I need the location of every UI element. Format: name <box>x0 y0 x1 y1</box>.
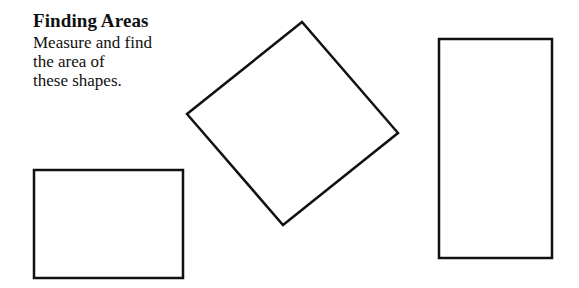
tall-rectangle-shape <box>439 39 552 258</box>
rotated-square-shape <box>187 22 398 225</box>
shapes-canvas <box>0 0 579 288</box>
wide-rectangle-shape <box>34 170 183 278</box>
